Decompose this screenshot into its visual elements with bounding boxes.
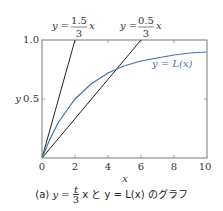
chart: 0 2 4 6 8 10 1.0 0.5 x y y = 1.5 3 x y =… bbox=[0, 0, 223, 211]
x-tick-8: 8 bbox=[171, 161, 177, 172]
x-tick-4: 4 bbox=[105, 161, 111, 172]
x-tick-2: 2 bbox=[72, 161, 78, 172]
svg-text:3: 3 bbox=[76, 28, 82, 39]
x-tick-6: 6 bbox=[138, 161, 144, 172]
y-axis-label: y bbox=[14, 93, 21, 104]
svg-text:0.5: 0.5 bbox=[138, 15, 154, 26]
svg-text:x: x bbox=[156, 20, 162, 31]
caption-rest: x と y = L(x) のグラフ bbox=[82, 189, 187, 200]
x-tick-0: 0 bbox=[39, 161, 45, 172]
x-tick-10: 10 bbox=[199, 161, 212, 172]
caption: (a) y = t 3 x と y = L(x) のグラフ bbox=[0, 185, 223, 204]
line-0p5-over-3 bbox=[42, 40, 141, 158]
svg-text:3: 3 bbox=[143, 28, 149, 39]
curve-label: y = L(x) bbox=[151, 58, 193, 69]
y-tick-05: 0.5 bbox=[23, 93, 39, 104]
label-line2: y = 0.5 3 x bbox=[119, 15, 162, 39]
caption-fraction: t 3 bbox=[73, 185, 79, 204]
caption-prefix: (a) bbox=[35, 189, 49, 200]
svg-text:y =: y = bbox=[51, 20, 69, 31]
line-1p5-over-3 bbox=[42, 40, 75, 158]
x-axis-label: x bbox=[122, 173, 128, 184]
svg-text:y =: y = bbox=[119, 20, 137, 31]
svg-text:x: x bbox=[89, 20, 95, 31]
y-tick-1: 1.0 bbox=[23, 34, 39, 45]
svg-text:1.5: 1.5 bbox=[71, 15, 87, 26]
label-line1: y = 1.5 3 x bbox=[51, 15, 95, 39]
caption-y: y = bbox=[52, 189, 69, 200]
